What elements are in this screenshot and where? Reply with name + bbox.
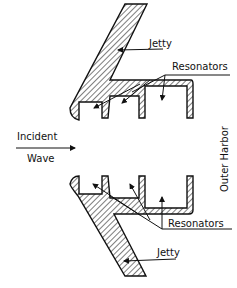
wave-label: Wave xyxy=(27,153,54,164)
outer-harbor-label: Outer Harbor xyxy=(219,125,230,192)
jetty-bottom-label: Jetty xyxy=(156,247,180,258)
incident-label: Incident xyxy=(17,131,57,142)
resonator-arrow-1 xyxy=(162,75,165,100)
harbor-resonator-diagram: Jetty Resonators Incident Wave Outer Har… xyxy=(0,0,237,288)
resonators-bottom-label: Resonators xyxy=(168,218,224,229)
resonators-top-label: Resonators xyxy=(172,61,228,72)
jetty-top-label: Jetty xyxy=(148,38,172,49)
